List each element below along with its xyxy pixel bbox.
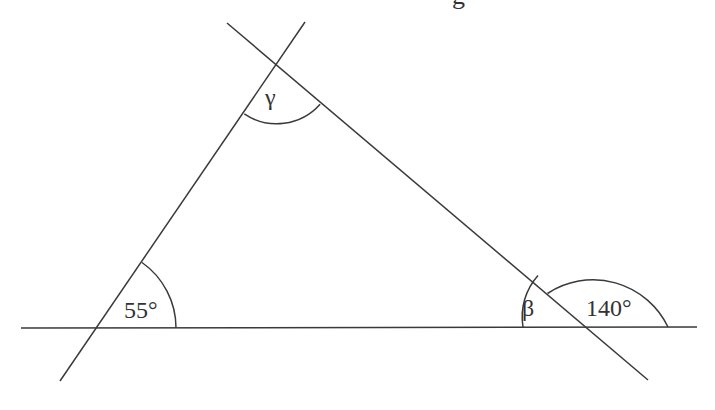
exterior-angle-140-label: 140°	[586, 295, 632, 321]
right-side-line	[227, 23, 648, 380]
triangle-diagram: g γ 55° β 140°	[0, 0, 715, 410]
clipped-heading-fragment: g	[452, 0, 465, 10]
beta-label: β	[522, 295, 534, 321]
baseline	[21, 327, 697, 328]
gamma-angle-arc	[244, 104, 320, 124]
angle-55-label: 55°	[124, 297, 158, 323]
gamma-label: γ	[264, 84, 276, 110]
